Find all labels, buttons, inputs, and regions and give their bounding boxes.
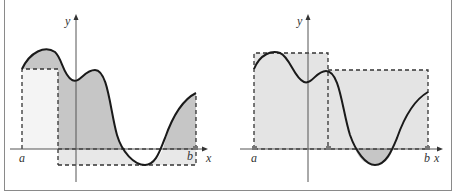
left-y-label: y (64, 14, 71, 28)
left-rect-1 (22, 69, 58, 149)
right-y-label: y (296, 14, 303, 28)
left-area-right-hump (163, 93, 196, 149)
right-a-label: a (251, 151, 257, 165)
left-rect-2-negative (58, 149, 196, 165)
left-b-label: b (187, 149, 193, 163)
left-x-label: x (205, 151, 212, 165)
right-b-label: b (424, 151, 430, 165)
left-panel: y x a b (10, 14, 212, 182)
right-x-label: x (433, 151, 440, 165)
riemann-sum-diagram: y x a b y x a b (0, 0, 455, 196)
left-a-label: a (19, 151, 25, 165)
right-panel: y x a b (240, 14, 443, 182)
